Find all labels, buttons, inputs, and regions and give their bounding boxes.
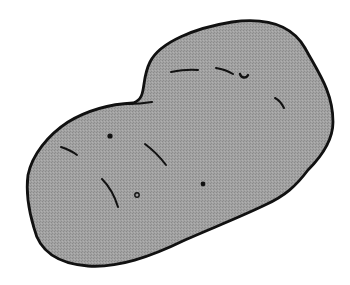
eye-dot bbox=[201, 182, 206, 187]
potato-illustration: potato illustration bbox=[0, 0, 350, 285]
potato-body bbox=[27, 21, 333, 267]
potato-svg bbox=[0, 0, 350, 285]
eye-dot bbox=[107, 133, 112, 138]
